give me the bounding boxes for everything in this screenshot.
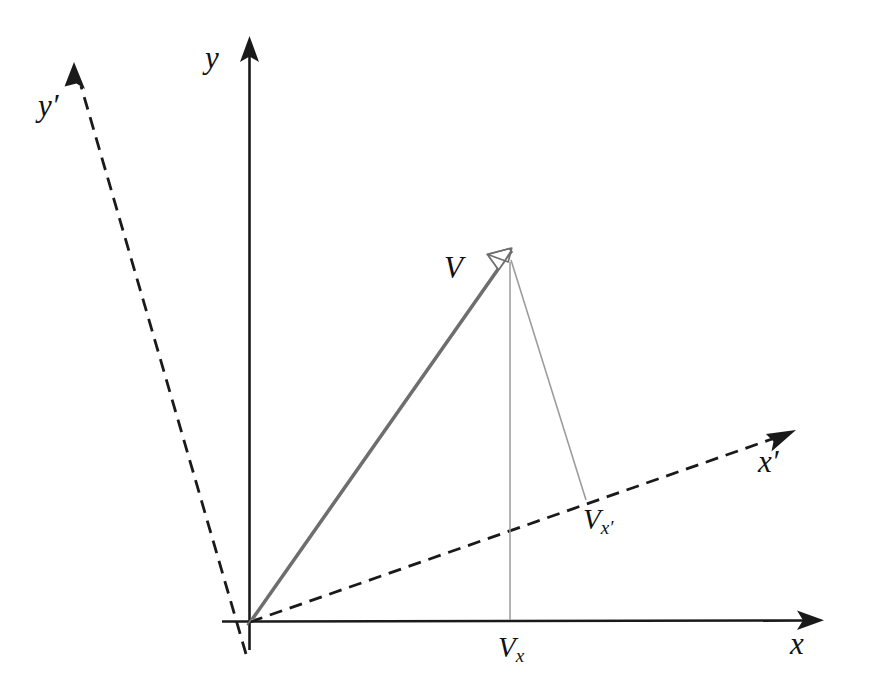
vx-base: V	[498, 631, 516, 663]
x-axis-label: x	[790, 626, 804, 662]
y-prime-axis-line	[81, 86, 246, 654]
vxp-subscript: x′	[601, 517, 614, 538]
x-prime-mark: ′	[772, 444, 779, 479]
y-prime-mark: ′	[52, 88, 59, 123]
y-prime-axis-arrowhead	[65, 62, 86, 89]
vxp-sub-mark: ′	[609, 517, 613, 538]
vector-label: V	[444, 250, 463, 286]
y-prime-base: y	[38, 88, 52, 123]
x-prime-axis-label: x′	[758, 444, 779, 480]
vector-V-shaft	[248, 263, 504, 625]
vx-component-label: Vx	[498, 631, 524, 667]
vx-prime-component-label: Vx′	[583, 503, 613, 539]
y-prime-axis-label: y′	[38, 88, 59, 124]
x-prime-base: x	[758, 444, 772, 479]
x-prime-axis-line	[250, 439, 772, 622]
y-prime-axis	[65, 62, 247, 654]
vector-V	[248, 248, 513, 625]
x-axis-line	[222, 621, 806, 622]
y-axis	[240, 36, 259, 650]
y-axis-label: y	[205, 40, 219, 76]
projection-to-x-prime-axis	[511, 260, 586, 500]
vector-decomposition-diagram: y y′ x x′ V Vx Vx′	[0, 0, 869, 692]
x-prime-axis	[250, 430, 796, 622]
vx-subscript: x	[516, 645, 525, 666]
vxp-base: V	[583, 503, 601, 535]
projection-lines	[510, 260, 586, 620]
vxp-sub-base: x	[601, 517, 610, 538]
x-axis	[222, 611, 824, 630]
diagram-canvas	[0, 0, 869, 692]
